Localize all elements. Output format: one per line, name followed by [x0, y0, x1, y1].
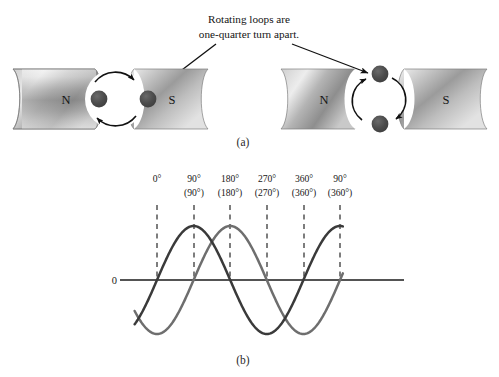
- tick-label-primary-5: 90°: [333, 173, 347, 184]
- tick-label-secondary-4: (360°): [292, 187, 317, 199]
- left-conductor-a: [91, 91, 108, 108]
- panel-b: 0° 90° 180° 270° 360° 90° (90°) (180°) (…: [112, 173, 404, 367]
- zero-axis-label: 0: [112, 275, 117, 286]
- right-conductor-top: [372, 66, 389, 83]
- tick-label-secondary-1: (90°): [184, 187, 204, 199]
- right-conductor-bottom: [372, 116, 389, 133]
- tick-label-primary-1: 90°: [187, 173, 201, 184]
- panel-b-caption: (b): [236, 354, 250, 367]
- panel-a-caption: (a): [237, 136, 250, 149]
- left-assembly: N S: [13, 69, 208, 129]
- tick-label-primary-3: 270°: [258, 173, 276, 184]
- left-south-label: S: [169, 93, 176, 107]
- tick-label-secondary-2: (180°): [218, 187, 243, 199]
- tick-label-primary-2: 180°: [221, 173, 239, 184]
- tick-label-secondary-3: (270°): [255, 187, 280, 199]
- physics-figure: Rotating loops are one-quarter turn apar…: [0, 0, 499, 377]
- tick-label-primary-4: 360°: [295, 173, 313, 184]
- left-north-label: N: [61, 93, 70, 107]
- tick-label-row-1: 0° 90° 180° 270° 360° 90°: [153, 173, 347, 184]
- left-conductor-b: [140, 91, 157, 108]
- tick-label-primary-0: 0°: [153, 173, 162, 184]
- tick-label-row-2: (90°) (180°) (270°) (360°) (360°): [184, 187, 352, 199]
- right-south-label: S: [443, 93, 450, 107]
- annotation-line-2: one-quarter turn apart.: [199, 28, 300, 40]
- tick-label-secondary-5: (360°): [328, 187, 353, 199]
- annotation-line-1: Rotating loops are: [208, 13, 290, 25]
- panel-a: Rotating loops are one-quarter turn apar…: [13, 13, 487, 149]
- right-north-pole: [281, 69, 355, 129]
- right-assembly: N S: [281, 66, 487, 133]
- figure-canvas: Rotating loops are one-quarter turn apar…: [0, 0, 499, 377]
- right-north-label: N: [319, 93, 328, 107]
